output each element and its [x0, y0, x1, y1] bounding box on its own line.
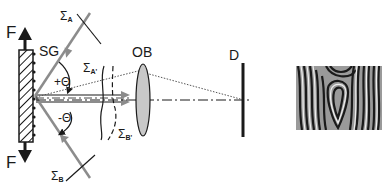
fringe-pattern-image — [296, 66, 382, 130]
sigma-a-label: ΣA — [60, 10, 72, 23]
specimen-grating — [19, 50, 36, 142]
incident-beam-b — [35, 96, 95, 181]
diffracted-beams — [36, 91, 130, 106]
force-arrow-top — [18, 27, 32, 50]
force-label-top: F — [6, 24, 16, 41]
sigma-b-label: ΣB — [51, 170, 63, 183]
grating-label: SG — [39, 44, 59, 58]
force-label-bottom: F — [6, 154, 16, 171]
sigma-a-prime-label: ΣA' — [83, 62, 97, 75]
objective-lens — [136, 64, 150, 136]
objective-label: OB — [132, 45, 152, 59]
force-arrow-bottom — [18, 142, 32, 163]
angle-minus-label: -Θ — [58, 112, 71, 124]
angle-plus-label: +Θ — [54, 76, 70, 88]
detector-label: D — [229, 48, 239, 62]
sigma-b-prime-label: ΣB' — [118, 128, 132, 141]
